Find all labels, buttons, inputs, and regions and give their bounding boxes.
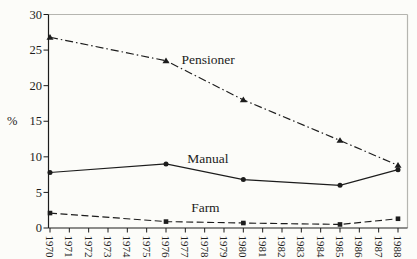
marker-circle-manual — [241, 177, 246, 182]
x-tick-label: 1987 — [373, 236, 385, 259]
y-tick-label: 0 — [36, 221, 42, 235]
marker-square-farm — [396, 216, 401, 221]
marker-triangle-pensioner — [395, 162, 402, 168]
series-line-farm — [50, 213, 398, 224]
y-tick-label: 10 — [30, 150, 43, 164]
y-axis-title: % — [7, 114, 17, 128]
marker-square-farm — [338, 222, 343, 227]
y-tick-label: 20 — [30, 79, 43, 93]
x-tick-label: 1988 — [392, 236, 404, 259]
line-chart-svg: 051015202530%197019711972197319741975197… — [0, 0, 417, 259]
y-tick-label: 25 — [30, 43, 43, 57]
marker-circle-manual — [396, 167, 401, 172]
x-tick-label: 1985 — [334, 236, 346, 259]
x-tick-label: 1976 — [160, 236, 172, 259]
marker-circle-manual — [338, 183, 343, 188]
x-tick-label: 1978 — [199, 236, 211, 259]
marker-square-farm — [164, 219, 169, 224]
x-tick-label: 1975 — [141, 236, 153, 259]
x-tick-label: 1973 — [102, 236, 114, 259]
x-tick-label: 1971 — [63, 236, 75, 258]
marker-triangle-pensioner — [47, 34, 54, 40]
marker-triangle-pensioner — [240, 97, 247, 103]
scanned-line-chart-figure: 051015202530%197019711972197319741975197… — [0, 0, 417, 259]
marker-circle-manual — [164, 161, 169, 166]
y-tick-label: 30 — [30, 8, 43, 22]
x-tick-label: 1972 — [83, 236, 95, 258]
x-tick-label: 1984 — [315, 236, 327, 259]
x-tick-label: 1974 — [121, 236, 133, 259]
series-label-farm: Farm — [191, 200, 220, 215]
x-tick-label: 1982 — [276, 236, 288, 258]
marker-circle-manual — [48, 170, 53, 175]
marker-triangle-pensioner — [337, 137, 344, 143]
series-label-manual: Manual — [187, 151, 228, 166]
x-tick-label: 1981 — [257, 236, 269, 258]
y-tick-label: 15 — [30, 114, 43, 128]
x-tick-label: 1970 — [44, 236, 56, 259]
x-tick-label: 1979 — [218, 236, 230, 259]
x-tick-label: 1986 — [353, 236, 365, 259]
marker-square-farm — [241, 221, 246, 226]
x-tick-label: 1980 — [237, 236, 249, 259]
x-tick-label: 1983 — [295, 236, 307, 259]
series-line-manual — [50, 164, 398, 185]
series-label-pensioner: Pensioner — [181, 52, 235, 67]
marker-square-farm — [48, 211, 53, 216]
y-tick-label: 5 — [36, 186, 42, 200]
x-tick-label: 1977 — [179, 236, 191, 259]
